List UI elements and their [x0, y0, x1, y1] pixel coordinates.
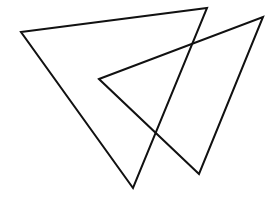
overlapping-triangles-figure — [0, 0, 279, 209]
diagram-canvas — [0, 0, 279, 209]
triangle-right — [99, 17, 263, 174]
triangle-left — [21, 8, 207, 188]
